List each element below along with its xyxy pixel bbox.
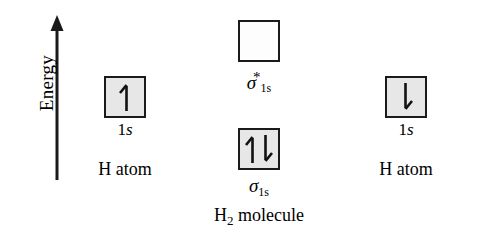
- sigma-sub-l: s: [264, 185, 269, 199]
- sigma-star-sub-l: s: [267, 81, 272, 95]
- label-right-h-atom: H atom: [351, 160, 461, 178]
- energy-axis-label: Energy: [36, 28, 58, 138]
- molecule-formula-head: H: [214, 205, 227, 225]
- label-left-h-atom: H atom: [70, 160, 180, 178]
- left-1s-l: s: [126, 120, 133, 139]
- orbital-box-bonding-sigma-1s[interactable]: [238, 128, 280, 170]
- mo-energy-diagram: Energy 1s H atom σ*1s σ1s: [0, 0, 480, 242]
- spin-up-arrow-icon: [119, 82, 132, 112]
- orbital-box-antibonding-sigma-star-1s[interactable]: [238, 20, 280, 62]
- label-bonding-sigma-1s: σ1s: [214, 176, 304, 198]
- label-antibonding-sigma-star-1s: σ*1s: [214, 70, 304, 94]
- label-right-1s: 1s: [376, 121, 436, 138]
- spin-up-arrow-icon: [245, 134, 258, 164]
- sigma-star-superscript: *: [253, 69, 261, 85]
- right-1s-l: s: [407, 120, 414, 139]
- label-h2-molecule: H2 molecule: [169, 206, 349, 227]
- molecule-formula-tail: molecule: [234, 205, 304, 225]
- sigma-glyph-bonding: σ: [249, 175, 258, 196]
- orbital-box-left-1s[interactable]: [104, 76, 146, 118]
- spin-down-arrow-icon: [260, 134, 273, 164]
- orbital-box-right-1s[interactable]: [385, 76, 427, 118]
- electron-spins-bonding: [240, 130, 278, 168]
- left-1s-n: 1: [117, 120, 126, 139]
- label-left-1s: 1s: [95, 121, 155, 138]
- spin-down-arrow-icon: [400, 82, 413, 112]
- electron-spins-antibonding: [240, 22, 278, 60]
- electron-spins-right: [387, 78, 425, 116]
- right-1s-n: 1: [398, 120, 407, 139]
- electron-spins-left: [106, 78, 144, 116]
